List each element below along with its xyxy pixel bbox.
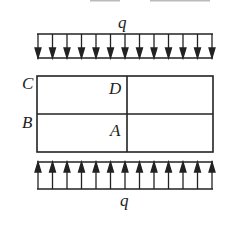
arrow-down-icon: [195, 48, 201, 58]
arrow-down-icon: [180, 48, 186, 58]
arrow-down-icon: [108, 48, 114, 58]
arrow-down-icon: [122, 48, 128, 58]
arrow-down-icon: [64, 48, 70, 58]
arrow-down-icon: [79, 48, 85, 58]
top-distributed-load: [35, 34, 215, 58]
arrow-down-icon: [50, 48, 56, 58]
arrow-down-icon: [93, 48, 99, 58]
structural-diagram: q C B D A q: [0, 0, 232, 228]
bottom-distributed-load: [35, 162, 215, 189]
point-label-B: B: [22, 113, 33, 132]
arrow-up-icon: [209, 162, 215, 172]
arrow-down-icon: [151, 48, 157, 58]
arrow-up-icon: [166, 162, 172, 172]
cropped-text-remnant: [90, 0, 210, 2]
arrow-up-icon: [79, 162, 85, 172]
point-label-A: A: [109, 121, 121, 140]
arrow-down-icon: [137, 48, 143, 58]
arrow-up-icon: [108, 162, 114, 172]
arrow-down-icon: [166, 48, 172, 58]
bottom-load-label: q: [120, 191, 129, 210]
arrow-down-icon: [209, 48, 215, 58]
arrow-up-icon: [122, 162, 128, 172]
arrow-up-icon: [151, 162, 157, 172]
point-label-D: D: [108, 79, 122, 98]
arrow-up-icon: [180, 162, 186, 172]
plate: [37, 76, 213, 152]
arrow-up-icon: [195, 162, 201, 172]
arrow-down-icon: [35, 48, 41, 58]
arrow-up-icon: [137, 162, 143, 172]
arrow-up-icon: [93, 162, 99, 172]
arrow-up-icon: [50, 162, 56, 172]
point-label-C: C: [22, 74, 34, 93]
top-load-label: q: [118, 13, 127, 32]
arrow-up-icon: [35, 162, 41, 172]
arrow-up-icon: [64, 162, 70, 172]
